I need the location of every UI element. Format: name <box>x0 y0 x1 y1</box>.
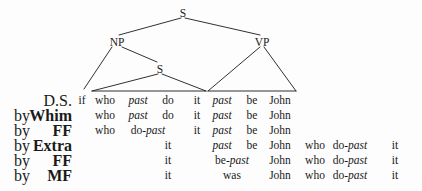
rule-name: MF <box>47 168 72 183</box>
by-word: by <box>14 153 30 168</box>
derivation-word: if <box>78 93 85 108</box>
branch-s-vp <box>185 18 260 35</box>
derivation-word: it <box>194 123 200 138</box>
derivation-row: byFFitbe-pastJohnwhodo-pastit <box>0 153 422 168</box>
derivation-word: it <box>194 93 200 108</box>
rule-name: FF <box>52 123 72 138</box>
derivation-word: was <box>223 168 241 183</box>
derivation-word: it <box>392 153 398 168</box>
derivation-word: do-past <box>333 168 368 183</box>
roman-stem: do- <box>333 154 348 166</box>
derivation-word: John <box>269 108 291 123</box>
italic-morpheme: past <box>348 169 367 181</box>
derivation-word: be <box>247 138 258 153</box>
derivation-word: be <box>247 93 258 108</box>
italic-morpheme: past <box>230 154 249 166</box>
syntax-derivation-figure: SNPVPS D.S.ifwhopastdoitpastbeJohnbyWhim… <box>0 0 422 191</box>
derivation-row: byWhimwhopastdoitpastbeJohn <box>0 108 422 123</box>
italic-morpheme: past <box>212 94 231 106</box>
roman-stem: do- <box>131 124 146 136</box>
branch-np-if <box>84 47 112 89</box>
by-word: by <box>14 123 30 138</box>
roman-stem: do- <box>333 169 348 181</box>
derivation-word: John <box>269 93 291 108</box>
derivation-word: John <box>269 168 291 183</box>
derivation-table: D.S.ifwhopastdoitpastbeJohnbyWhimwhopast… <box>0 93 422 183</box>
derivation-word: past <box>212 93 231 108</box>
branch-embedded-s-right <box>162 74 206 91</box>
derivation-stage-label: byMF <box>14 168 72 183</box>
by-word: by <box>14 168 30 183</box>
derivation-word: do-past <box>131 123 166 138</box>
rule-name: Extra <box>33 138 72 153</box>
derivation-word: do <box>162 93 174 108</box>
derivation-word: do-past <box>333 153 368 168</box>
derivation-stage-label: byFF <box>14 153 72 168</box>
branch-embedded-s-left <box>92 74 158 91</box>
derivation-stage-label: byExtra <box>14 138 72 153</box>
derivation-row: byMFitwasJohnwhodo-pastit <box>0 168 422 183</box>
derivation-stage-label: byFF <box>14 123 72 138</box>
rule-name: Whim <box>29 108 72 123</box>
derivation-word: who <box>305 153 325 168</box>
tree-node-vp: VP <box>255 37 270 49</box>
by-word: by <box>14 138 30 153</box>
derivation-word: past <box>128 108 147 123</box>
by-word: by <box>14 108 30 123</box>
roman-stem: do- <box>333 139 348 151</box>
derivation-word: be <box>247 108 258 123</box>
derivation-word: John <box>269 138 291 153</box>
derivation-word: who <box>95 93 115 108</box>
derivation-word: do <box>162 108 174 123</box>
italic-morpheme: past <box>212 109 231 121</box>
derivation-stage-label: byWhim <box>14 108 72 123</box>
italic-morpheme: past <box>128 94 147 106</box>
derivation-word: John <box>269 153 291 168</box>
derivation-word: who <box>305 138 325 153</box>
derivation-word: John <box>269 123 291 138</box>
tree-node-np: NP <box>110 37 125 49</box>
branch-s-np <box>119 18 181 35</box>
derivation-word: it <box>392 138 398 153</box>
derivation-word: do-past <box>333 138 368 153</box>
derivation-word: who <box>95 108 115 123</box>
derivation-word: past <box>212 123 231 138</box>
derivation-row: D.S.ifwhopastdoitpastbeJohn <box>0 93 422 108</box>
branch-np-embedded-s <box>122 47 157 62</box>
derivation-row: byFFwhodo-pastitpastbeJohn <box>0 123 422 138</box>
derivation-word: it <box>165 153 171 168</box>
italic-morpheme: past <box>212 139 231 151</box>
derivation-word: past <box>128 93 147 108</box>
derivation-word: it <box>165 168 171 183</box>
italic-morpheme: past <box>146 124 165 136</box>
derivation-word: past <box>212 108 231 123</box>
derivation-word: it <box>165 138 171 153</box>
tree-node-root-s: S <box>180 8 186 20</box>
derivation-word: who <box>95 123 115 138</box>
branch-vp-left <box>208 47 260 91</box>
derivation-word: past <box>212 138 231 153</box>
italic-morpheme: past <box>348 139 367 151</box>
italic-morpheme: past <box>348 154 367 166</box>
derivation-word: it <box>194 108 200 123</box>
derivation-row: byExtraitpastbeJohnwhodo-pastit <box>0 138 422 153</box>
rule-name: FF <box>52 153 72 168</box>
tree-node-embedded-s: S <box>157 64 163 76</box>
derivation-stage-label: D.S. <box>14 93 72 108</box>
branch-vp-right <box>264 47 296 91</box>
derivation-word: be-past <box>215 153 249 168</box>
deep-structure-label: D.S. <box>44 93 72 108</box>
roman-stem: be- <box>215 154 230 166</box>
derivation-word: be <box>247 123 258 138</box>
italic-morpheme: past <box>212 124 231 136</box>
derivation-word: who <box>305 168 325 183</box>
italic-morpheme: past <box>128 109 147 121</box>
derivation-word: it <box>392 168 398 183</box>
